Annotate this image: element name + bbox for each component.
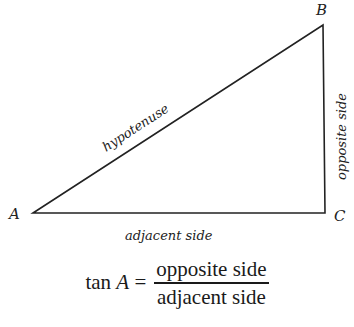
opposite-side-label: opposite side [334, 93, 349, 180]
formula-function: tan [85, 270, 111, 294]
tangent-formula: tan A = opposite side adjacent side [0, 258, 354, 308]
adjacent-side-label: adjacent side [125, 228, 213, 243]
fraction-bar [154, 282, 268, 284]
formula-numerator: opposite side [154, 258, 268, 280]
vertex-label-b: B [315, 1, 327, 19]
triangle-shape [33, 25, 325, 213]
formula-variable: A [116, 270, 129, 294]
formula-denominator: adjacent side [155, 286, 268, 308]
vertex-label-a: A [7, 205, 20, 223]
formula-fraction: opposite side adjacent side [154, 258, 268, 308]
formula-lhs: tan A = [85, 270, 146, 295]
vertex-label-c: C [334, 207, 346, 225]
formula-equals: = [134, 270, 146, 294]
